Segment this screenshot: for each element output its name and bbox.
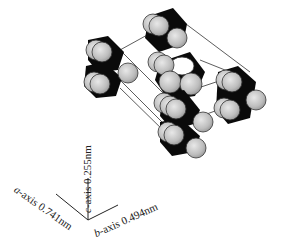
c-axis-letter: c — [81, 208, 93, 213]
molecule-left — [84, 36, 138, 98]
c-axis-text: -axis 0.255nm — [81, 145, 93, 208]
molecule-right — [214, 66, 266, 124]
c-axis-label: c-axis 0.255nm — [81, 145, 93, 213]
molecule-bottom — [154, 90, 213, 158]
molecule-top — [143, 8, 187, 52]
